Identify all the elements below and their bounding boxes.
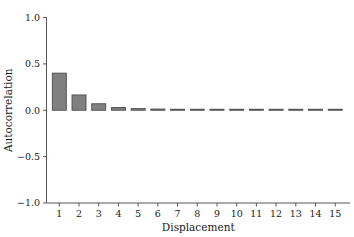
bar (230, 109, 244, 110)
chart-background (0, 0, 354, 237)
y-tick-label: 1.0 (25, 12, 40, 23)
x-tick-label: 6 (155, 208, 161, 219)
bar (210, 109, 224, 110)
y-tick-label: −1.0 (17, 197, 40, 208)
bar (269, 109, 283, 110)
bar (52, 73, 66, 110)
bar (249, 109, 263, 110)
y-tick-label: 0.0 (25, 105, 40, 116)
x-tick-label: 10 (231, 208, 243, 219)
x-tick-label: 15 (329, 208, 341, 219)
bar (151, 109, 165, 110)
bar (309, 109, 323, 110)
x-tick-label: 1 (56, 208, 62, 219)
bar (111, 107, 125, 110)
bar (328, 109, 342, 110)
y-axis-title: Autocorrelation (2, 68, 14, 153)
y-tick-label: −0.5 (17, 151, 40, 162)
x-tick-label: 4 (115, 208, 121, 219)
bar (171, 109, 185, 110)
bar (190, 109, 204, 110)
autocorrelation-chart-figure: 1.00.50.0−0.5−1.0 123456789101112131415 … (0, 0, 354, 237)
x-tick-label: 7 (175, 208, 181, 219)
bar (72, 95, 86, 110)
x-tick-label: 12 (270, 208, 282, 219)
x-tick-label: 9 (214, 208, 220, 219)
x-tick-label: 14 (309, 208, 321, 219)
x-axis-title: Displacement (162, 221, 236, 233)
chart-canvas: 1.00.50.0−0.5−1.0 123456789101112131415 … (0, 0, 354, 237)
bar (131, 109, 145, 111)
x-tick-label: 2 (76, 208, 82, 219)
x-tick-label: 3 (96, 208, 102, 219)
x-tick-label: 8 (194, 208, 200, 219)
bar (289, 109, 303, 110)
x-tick-label: 13 (290, 208, 302, 219)
y-tick-label: 0.5 (25, 58, 40, 69)
x-tick-label: 5 (135, 208, 141, 219)
bar (92, 104, 106, 110)
x-tick-label: 11 (250, 208, 262, 219)
